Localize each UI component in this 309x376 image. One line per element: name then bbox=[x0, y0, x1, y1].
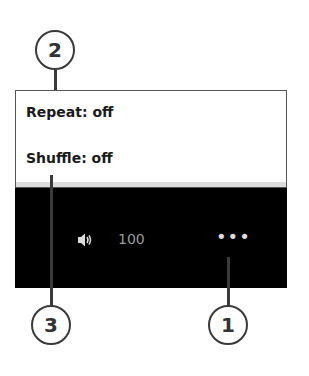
callout-2-number: 2 bbox=[48, 38, 62, 62]
more-options-icon[interactable]: ••• bbox=[216, 226, 251, 247]
menu-bottom-strip bbox=[16, 182, 286, 187]
callout-3: 3 bbox=[31, 305, 71, 345]
menu-item-shuffle[interactable]: Shuffle: off bbox=[26, 150, 113, 166]
callout-1-number: 1 bbox=[221, 313, 235, 337]
callout-1: 1 bbox=[208, 305, 248, 345]
callout-3-number: 3 bbox=[44, 313, 58, 337]
menu-item-repeat[interactable]: Repeat: off bbox=[26, 104, 113, 120]
playback-options-menu: Repeat: off Shuffle: off bbox=[15, 90, 287, 188]
volume-value: 100 bbox=[118, 231, 145, 247]
callout-2: 2 bbox=[35, 30, 75, 70]
speaker-icon[interactable] bbox=[77, 232, 93, 252]
callout-3-leader-line bbox=[50, 175, 53, 307]
callout-1-leader-line bbox=[227, 257, 230, 307]
